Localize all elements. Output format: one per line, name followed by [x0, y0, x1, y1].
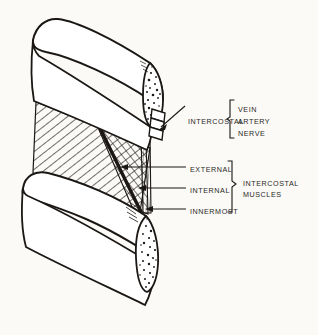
label-nerve: NERVE [238, 128, 265, 139]
label-innermost: INNERMOST [190, 206, 238, 217]
label-intercostal-muscles-line2: MUSCLES [243, 189, 282, 200]
neurovascular-bundle [149, 109, 165, 140]
figure-page: INTERCOSTAL VEIN ARTERY NERVE EXTERNAL I… [0, 0, 318, 335]
anatomical-illustration [0, 0, 318, 335]
label-intercostal-muscles-line1: INTERCOSTAL [243, 178, 299, 189]
label-intercostal: INTERCOSTAL [188, 116, 244, 127]
label-artery: ARTERY [238, 116, 270, 127]
label-external: EXTERNAL [190, 164, 232, 175]
lower-rib-cut-cross-section [136, 216, 158, 292]
label-vein: VEIN [238, 104, 257, 115]
label-internal: INTERNAL [190, 185, 230, 196]
